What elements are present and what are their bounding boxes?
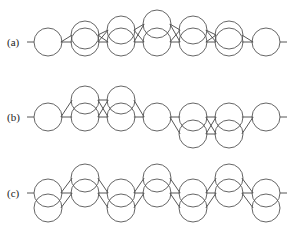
unit-circle — [143, 164, 171, 192]
bond-line — [98, 178, 108, 193]
unit-circle — [71, 164, 99, 192]
chain-diagram: (a) (b) (c) — [0, 0, 299, 231]
bond-line — [170, 193, 180, 208]
unit-circle — [215, 28, 243, 56]
unit-circle — [107, 28, 135, 56]
unit-circle — [179, 16, 207, 44]
unit-circle — [215, 179, 243, 207]
unit-circle — [34, 103, 62, 131]
unit-circle — [107, 86, 135, 114]
row-a: (a) — [7, 10, 287, 56]
bond-line — [242, 35, 253, 42]
bond-line — [134, 100, 144, 117]
unit-circle — [252, 179, 280, 207]
bond-line — [170, 178, 180, 193]
unit-circle — [34, 179, 62, 207]
unit-circle — [71, 21, 99, 49]
row-label-a: (a) — [7, 36, 20, 49]
row-label-c: (c) — [7, 187, 20, 200]
unit-circle — [107, 16, 135, 44]
unit-circle — [107, 179, 135, 207]
row-b: (b) — [7, 86, 287, 148]
unit-circle — [215, 164, 243, 192]
bond-line — [170, 117, 180, 134]
unit-circle — [143, 103, 171, 131]
unit-circle — [215, 120, 243, 148]
unit-circle — [71, 28, 99, 56]
bond-line — [242, 193, 253, 208]
bond-line — [206, 178, 216, 193]
unit-circle — [71, 86, 99, 114]
bond-line — [242, 117, 253, 134]
unit-circle — [107, 103, 135, 131]
unit-circle — [215, 103, 243, 131]
unit-circle — [107, 194, 135, 222]
unit-circle — [179, 179, 207, 207]
unit-circle — [71, 179, 99, 207]
bond-line — [61, 100, 72, 117]
unit-circle — [143, 10, 171, 38]
unit-circle — [252, 28, 280, 56]
bond-line — [134, 193, 144, 208]
unit-circle — [71, 103, 99, 131]
bond-line — [242, 178, 253, 193]
unit-circle — [252, 194, 280, 222]
unit-circle — [34, 194, 62, 222]
unit-circle — [179, 103, 207, 131]
bond-line — [134, 178, 144, 193]
bond-line — [61, 35, 72, 42]
unit-circle — [179, 120, 207, 148]
unit-circle — [179, 194, 207, 222]
unit-circle — [252, 103, 280, 131]
bond-line — [61, 193, 72, 208]
bond-line — [61, 178, 72, 193]
unit-circle — [143, 28, 171, 56]
unit-circle — [215, 21, 243, 49]
row-label-b: (b) — [7, 111, 20, 124]
row-c: (c) — [7, 164, 287, 222]
unit-circle — [143, 179, 171, 207]
bond-line — [98, 193, 108, 208]
bond-line — [206, 193, 216, 208]
unit-circle — [179, 28, 207, 56]
unit-circle — [34, 28, 62, 56]
